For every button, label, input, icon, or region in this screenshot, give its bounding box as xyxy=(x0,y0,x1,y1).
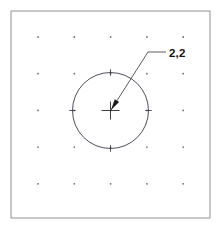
grid-dot[interactable] xyxy=(146,183,148,185)
grid-dot[interactable] xyxy=(37,183,39,185)
grid-dot[interactable] xyxy=(73,73,75,75)
grid-dot[interactable] xyxy=(73,183,75,185)
grid-dot[interactable] xyxy=(182,36,184,38)
grid-dot[interactable] xyxy=(37,73,39,75)
grid-dot[interactable] xyxy=(146,36,148,38)
grid-dot[interactable] xyxy=(37,36,39,38)
grid-dot[interactable] xyxy=(110,36,112,38)
grid-dot[interactable] xyxy=(73,36,75,38)
grid-dot[interactable] xyxy=(37,146,39,148)
grid-dot[interactable] xyxy=(182,110,184,112)
grid-dot[interactable] xyxy=(182,183,184,185)
grid-dot[interactable] xyxy=(110,183,112,185)
grid-dot[interactable] xyxy=(37,110,39,112)
grid-dot[interactable] xyxy=(73,146,75,148)
cad-drawing-area[interactable]: 2,2 xyxy=(0,0,222,233)
grid-dot[interactable] xyxy=(146,146,148,148)
drawing-canvas: 2,2 xyxy=(0,0,222,233)
grid-dot[interactable] xyxy=(146,73,148,75)
grid-dot[interactable] xyxy=(182,146,184,148)
grid-dot[interactable] xyxy=(182,73,184,75)
coordinate-label: 2,2 xyxy=(169,47,186,59)
